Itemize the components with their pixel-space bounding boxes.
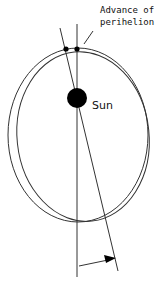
annotation-label-line2: perihelion	[100, 17, 154, 28]
orbit-ellipse-precessed	[9, 45, 158, 228]
orbit-diagram-svg	[0, 0, 160, 287]
perihelion-point-original	[74, 46, 79, 51]
annotation-leader-line	[84, 31, 93, 44]
orbit-ellipse-original	[8, 48, 148, 222]
sun-label: Sun	[92, 99, 113, 112]
perihelion-diagram: Advance of perihelion Sun	[0, 0, 160, 287]
perihelion-point-advanced	[63, 46, 68, 51]
rotation-arrow-shaft	[79, 260, 108, 266]
annotation-label-line1: Advance of	[100, 5, 154, 16]
sun-icon	[67, 88, 87, 108]
advanced-apsis-line	[60, 28, 118, 271]
